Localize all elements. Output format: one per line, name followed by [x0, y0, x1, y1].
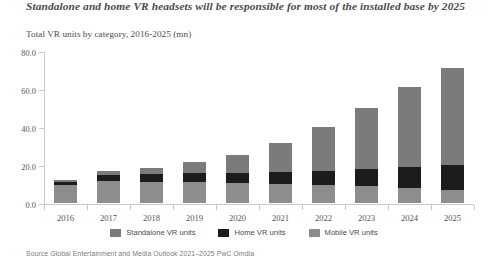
- bar-segment: [441, 190, 463, 203]
- source-note: Source Global Entertainment and Media Ou…: [26, 250, 254, 257]
- bar-segment: [183, 162, 205, 172]
- bar-segment: [355, 108, 377, 169]
- bar-segment: [183, 182, 205, 203]
- bar-segment: [269, 184, 291, 203]
- x-axis-label-2020: 2020: [229, 213, 246, 223]
- bar-segment: [226, 173, 248, 183]
- bar-2023: [355, 108, 377, 203]
- legend-item-label: Mobile VR units: [325, 228, 378, 237]
- x-axis-label-2019: 2019: [186, 213, 203, 223]
- plot-area: 0.020.040.060.080.0 20162017201820192020…: [44, 52, 474, 204]
- bar-2016: [54, 180, 76, 203]
- y-axis-label: 0.0: [26, 200, 36, 209]
- chart-title: Standalone and home VR headsets will be …: [26, 0, 466, 14]
- x-axis-label-2021: 2021: [272, 213, 289, 223]
- x-axis-label-2016: 2016: [57, 213, 74, 223]
- bar-segment: [398, 167, 420, 188]
- x-axis-tick: [216, 205, 217, 210]
- x-axis-tick: [474, 205, 475, 210]
- legend-swatch-mobile: [309, 229, 320, 237]
- chart-legend: Standalone VR unitsHome VR unitsMobile V…: [0, 228, 488, 237]
- x-axis-label-2025: 2025: [444, 213, 461, 223]
- x-axis-label-2024: 2024: [401, 213, 418, 223]
- bar-2025: [441, 68, 463, 203]
- x-axis-tick: [345, 205, 346, 210]
- chart-figure: Standalone and home VR headsets will be …: [0, 0, 488, 271]
- bar-2017: [97, 171, 119, 203]
- legend-swatch-standalone: [110, 229, 121, 237]
- bar-segment: [269, 143, 291, 172]
- bar-2022: [312, 127, 334, 203]
- bar-segment: [183, 173, 205, 183]
- legend-swatch-home: [218, 229, 229, 237]
- legend-item[interactable]: Home VR units: [218, 228, 285, 237]
- bar-segment: [54, 185, 76, 203]
- bar-segment: [226, 183, 248, 203]
- bar-2018: [140, 168, 162, 203]
- legend-item[interactable]: Standalone VR units: [110, 228, 195, 237]
- x-axis-label-2022: 2022: [315, 213, 332, 223]
- x-axis-tick: [130, 205, 131, 210]
- bar-segment: [226, 155, 248, 173]
- bar-segment: [355, 169, 377, 186]
- bar-segment: [312, 127, 334, 171]
- x-axis-tick: [44, 205, 45, 210]
- x-axis-tick: [173, 205, 174, 210]
- legend-item-label: Standalone VR units: [126, 228, 195, 237]
- x-axis-label-2018: 2018: [143, 213, 160, 223]
- x-axis-label-2023: 2023: [358, 213, 375, 223]
- bar-segment: [269, 172, 291, 184]
- y-axis-label: 20.0: [21, 162, 36, 171]
- y-axis-label: 40.0: [21, 124, 36, 133]
- bar-2024: [398, 87, 420, 203]
- y-axis-label: 60.0: [21, 86, 36, 95]
- bar-segment: [140, 174, 162, 183]
- chart-subtitle: Total VR units by category, 2016-2025 (m…: [26, 29, 191, 40]
- legend-item[interactable]: Mobile VR units: [309, 228, 378, 237]
- x-axis-tick: [431, 205, 432, 210]
- y-axis-label: 80.0: [21, 48, 36, 57]
- bar-2019: [183, 162, 205, 203]
- bar-segment: [398, 87, 420, 167]
- bar-2021: [269, 143, 291, 203]
- bar-segment: [312, 171, 334, 185]
- bar-segment: [398, 188, 420, 203]
- bar-segment: [355, 186, 377, 203]
- bar-2020: [226, 155, 248, 203]
- legend-item-label: Home VR units: [234, 228, 285, 237]
- bar-segment: [97, 175, 119, 182]
- x-axis-tick: [302, 205, 303, 210]
- x-axis-tick: [388, 205, 389, 210]
- bar-segment: [441, 165, 463, 190]
- bar-segment: [140, 182, 162, 203]
- x-axis-tick: [87, 205, 88, 210]
- bar-segment: [312, 185, 334, 203]
- x-axis-label-2017: 2017: [100, 213, 117, 223]
- bar-segment: [97, 181, 119, 203]
- x-axis-tick: [259, 205, 260, 210]
- bar-segment: [441, 68, 463, 165]
